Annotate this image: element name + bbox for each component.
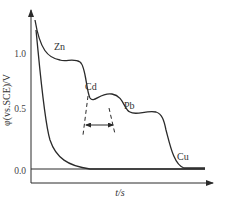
ytick-0.0: 0.0 xyxy=(14,166,26,176)
ytick-1.0: 1.0 xyxy=(14,49,26,59)
label-pb: Pb xyxy=(124,100,135,111)
label-cd: Cd xyxy=(85,81,97,92)
label-cu: Cu xyxy=(177,151,189,162)
y-axis-label: φ(vs.SCE)/V xyxy=(1,73,13,126)
dashed-tangent-right xyxy=(109,108,115,134)
x-axis-label: t/s xyxy=(115,187,125,198)
label-zn: Zn xyxy=(54,41,65,52)
chronopotentiogram-chart: 1.0 0.5 0.0 φ(vs.SCE)/V t/s Zn Cd Pb Cu xyxy=(0,0,226,201)
dashed-tangent-left xyxy=(83,96,88,135)
ytick-0.5: 0.5 xyxy=(14,104,26,114)
